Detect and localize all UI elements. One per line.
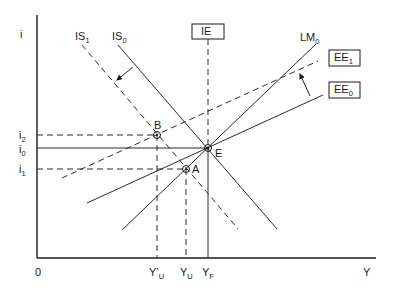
y-prime-u-label: Y’U [149, 266, 164, 281]
i1-label: i1 [19, 163, 26, 178]
point-b-label: B [154, 119, 161, 131]
point-e-label: E [215, 147, 222, 159]
lm0-label: LM0 [300, 31, 319, 46]
y-f-label: YF [202, 266, 214, 281]
is1-label: IS1 [75, 30, 90, 45]
is-lm-ee-diagram: i 0 Y B E A i2 i0 i1 Y’U YU YF IS1 IS0 [0, 0, 393, 291]
lm0-curve [122, 44, 316, 230]
origin-label: 0 [35, 266, 41, 278]
y-axis-label: i [20, 28, 22, 40]
x-axis-label: Y [363, 266, 371, 278]
i0-label: i0 [19, 143, 26, 158]
ee-shift-arrow-icon [300, 74, 310, 96]
point-a-label: A [192, 163, 200, 175]
is0-label: IS0 [112, 30, 127, 45]
is0-curve [118, 45, 277, 229]
y-u-label: YU [180, 266, 193, 281]
i2-label: i2 [19, 129, 26, 144]
is-shift-arrow-icon [117, 67, 133, 80]
ie-label: IE [201, 25, 211, 37]
